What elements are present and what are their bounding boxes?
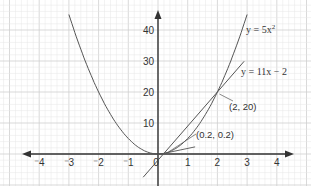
parabola-label-exp: 2: [272, 23, 276, 31]
y-tick-label: 40: [143, 25, 155, 36]
label-parabola: y = 5x2: [246, 23, 276, 35]
annotation-intersection: (2, 20): [229, 101, 256, 112]
leader-intersection: [219, 94, 233, 101]
x-tick-label: 0: [153, 157, 159, 168]
annotation-tangent-point: (0.2, 0.2): [196, 129, 234, 140]
chart: y = 5x2 y = 11x − 2 (2, 20) (0.2, 0.2) ⁻…: [0, 0, 311, 186]
x-axis-right-arrow: [285, 151, 294, 158]
x-tick-label: 3: [244, 157, 250, 168]
x-tick-label: ⁻3: [64, 157, 75, 168]
x-tick-label: ⁻2: [93, 157, 104, 168]
x-tick-label: 2: [215, 157, 221, 168]
tick-labels: ⁻4⁻3⁻2⁻10123410203040: [34, 25, 280, 168]
x-tick-label: 4: [274, 157, 280, 168]
x-tick-label: ⁻1: [123, 157, 134, 168]
y-tick-label: 30: [143, 56, 155, 67]
labels: y = 5x2 y = 11x − 2 (2, 20) (0.2, 0.2): [196, 23, 287, 140]
parabola-label-main: y = 5x: [246, 24, 272, 35]
y-tick-label: 10: [143, 118, 155, 129]
x-tick-label: 1: [185, 157, 191, 168]
x-axis-left-arrow: [22, 151, 31, 158]
x-tick-label: ⁻4: [34, 157, 45, 168]
y-tick-label: 20: [143, 87, 155, 98]
label-line: y = 11x − 2: [241, 66, 287, 77]
